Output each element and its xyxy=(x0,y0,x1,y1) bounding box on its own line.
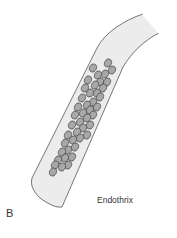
panel-letter: B xyxy=(6,207,13,219)
endothrix-diagram: Endothrix B xyxy=(0,0,177,238)
caption-label: Endothrix xyxy=(97,195,134,205)
